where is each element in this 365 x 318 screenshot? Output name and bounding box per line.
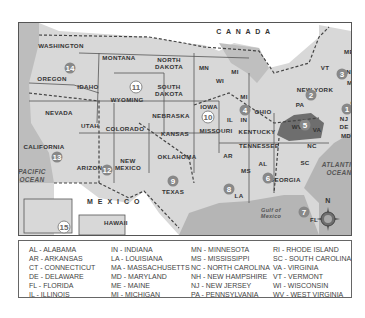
state-label: MISSOURI [200,127,233,134]
state-label: COLORADO [106,125,145,132]
state-label: MI [231,68,238,75]
legend-entry: NC - NORTH CAROLINA [191,263,270,272]
region-number-badge: 5 [300,120,311,131]
legend-column-4: RI - RHODE ISLANDSC - SOUTH CAROLINAVA -… [273,245,351,299]
region-number-badge: 2 [306,90,317,101]
state-label: GEORGIA [269,176,300,183]
state-label: WI [216,77,224,84]
region-number-badge: 11 [130,81,143,94]
region-number-badge: 10 [202,111,215,124]
state-label: WYOMING [110,96,143,103]
atlantic-ocean-label: ATLANTIC OCEAN [321,161,352,177]
state-abbreviation-legend: AL - ALABAMAAR - ARKANSASCT - CONNECTICU… [18,240,352,298]
legend-entry: AL - ALABAMA [29,245,95,254]
legend-entry: PA - PENNSYLVANIA [191,290,270,299]
state-label: NJ [340,115,349,122]
state-label: FL [310,216,318,223]
legend-entry: MD - MARYLAND [111,272,190,281]
legend-entry: WI - WISCONSIN [273,281,351,290]
state-label: KANSAS [161,130,189,137]
state-label: OREGON [37,75,66,82]
region-number-badge: 6 [263,173,274,184]
pacific-ocean-label: PACIFIC OCEAN [18,168,47,184]
state-label: TEXAS [162,188,184,195]
region-number-badge: 12 [102,165,113,176]
state-label: PA [296,101,305,108]
state-label: DE [339,123,348,130]
legend-entry: LA - LOUISIANA [111,254,190,263]
legend-entry: VT - VERMONT [273,272,351,281]
legend-entry: NJ - NEW JERSEY [191,281,270,290]
state-label: MN [199,64,209,71]
legend-entry: AR - ARKANSAS [29,254,95,263]
state-label: IOWA [200,103,218,110]
state-label: AL [259,160,268,167]
legend-entry: MN - MINNESOTA [191,245,270,254]
state-label: CALIFORNIA [23,143,64,150]
state-label: HAWAII [104,219,128,226]
state-label: UTAH [81,122,99,129]
canada-label: C A N A D A [216,28,271,35]
legend-column-3: MN - MINNESOTAMS - MISSISSIPPINC - NORTH… [191,245,270,299]
legend-column-2: IN - INDIANALA - LOUISIANAMA - MASSACHUS… [111,245,190,299]
state-label: IDAHO [77,83,98,90]
state-label: NEBRASKA [152,112,189,119]
state-label: OHIO [254,108,271,115]
legend-column-1: AL - ALABAMAAR - ARKANSASCT - CONNECTICU… [29,245,95,299]
region-number-badge: 9 [168,176,179,187]
state-label: MONTANA [102,54,135,61]
region-number-badge: 7 [299,207,310,218]
region-number-badge: 14 [65,63,76,74]
state-label: SC [300,159,309,166]
state-label: NEVADA [45,109,72,116]
legend-entry: CT - CONNECTICUT [29,263,95,272]
legend-entry: IL - ILLINOIS [29,290,95,299]
legend-entry: WV - WEST VIRGINIA [273,290,351,299]
state-label: MD [341,132,351,139]
legend-entry: FL - FLORIDA [29,281,95,290]
legend-entry: MI - MICHIGAN [111,290,190,299]
compass-north-label: N [325,197,330,204]
legend-entry: SC - SOUTH CAROLINA [273,254,351,263]
state-label: AR [223,152,233,159]
state-label: LA [235,192,244,199]
legend-entry: MA - MASSACHUSETTS [111,263,190,272]
legend-entry: DE - DELAWARE [29,272,95,281]
state-label: NEW MEXICO [111,157,145,171]
state-label: VA [313,126,322,133]
state-label: VT [321,64,330,71]
state-label: NORTH DAKOTA [152,56,186,70]
region-number-badge: 15 [58,221,71,234]
region-number-badge: 1 [342,104,353,115]
state-label: MI [240,93,247,100]
region-number-badge: 8 [224,184,235,195]
legend-entry: IN - INDIANA [111,245,190,254]
state-label: OKLAHOMA [158,153,197,160]
legend-entry: NH - NEW HAMPSHIRE [191,272,270,281]
state-label: IN [241,116,248,123]
state-label: KENTUCKY [239,128,276,135]
gulf-label: Gulf of Mexico [258,207,284,219]
legend-entry: ME - MAINE [111,281,190,290]
state-label: MS [241,167,251,174]
state-label: TENNESSEE [239,142,279,149]
state-label: WASHINGTON [38,42,84,49]
legend-entry: VA - VIRGINIA [273,263,351,272]
state-label: ALASKA [47,235,75,237]
state-label: SOUTH DAKOTA [152,83,186,97]
state-label: IL [227,116,233,123]
state-label: NC [307,142,317,149]
legend-entry: MS - MISSISSIPPI [191,254,270,263]
legend-entry: RI - RHODE ISLAND [273,245,351,254]
mexico-label: M E X I C O [87,198,141,205]
region-number-badge: 13 [52,152,63,163]
region-number-badge: 4 [240,105,251,116]
state-label: MA [347,79,352,86]
region-number-badge: 3 [337,69,348,80]
state-label: ME [344,48,352,55]
us-regions-map: C A N A D A M E X I C O PACIFIC OCEAN AT… [18,22,352,236]
